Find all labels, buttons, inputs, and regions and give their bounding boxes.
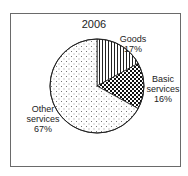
label-basic-pct: 16%	[145, 94, 181, 104]
label-other-line2: services	[24, 114, 62, 124]
label-goods-pct: 17%	[118, 44, 148, 54]
label-basic-line2: services	[145, 84, 181, 94]
label-other-pct: 67%	[24, 124, 62, 134]
label-other-services: Other services 67%	[24, 104, 62, 134]
label-basic-services: Basic services 16%	[145, 74, 181, 104]
label-other-line1: Other	[24, 104, 62, 114]
label-goods: Goods 17%	[118, 34, 148, 54]
label-basic-line1: Basic	[145, 74, 181, 84]
label-goods-name: Goods	[118, 34, 148, 44]
